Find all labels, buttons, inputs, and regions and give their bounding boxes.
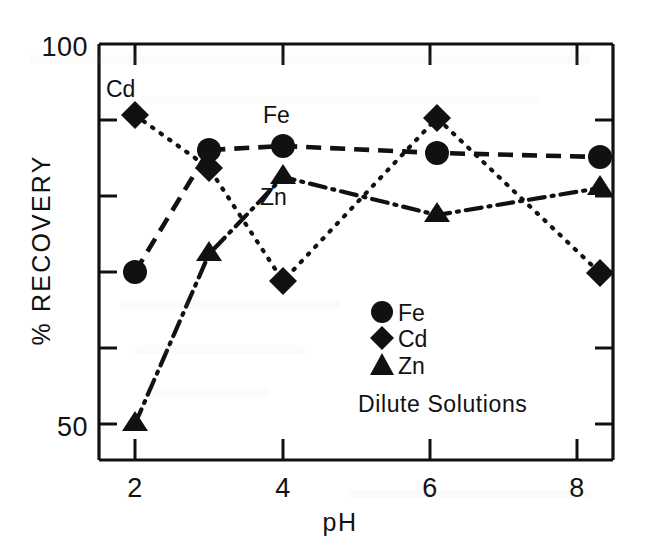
annotation-cd: Cd (106, 76, 135, 102)
data-point-zn-ph2 (122, 411, 148, 431)
data-point-cd-ph2 (121, 101, 149, 129)
annotation-fe: Fe (263, 102, 290, 128)
recovery-vs-ph-chart: 100 50 2 4 6 8 % RECOVERY pH (0, 0, 649, 541)
series-zn-line (135, 177, 600, 424)
data-point-fe-ph8 (588, 145, 612, 169)
x-tick-label-6: 6 (422, 473, 438, 503)
legend-note: Dilute Solutions (358, 391, 527, 417)
annotation-zn: Zn (260, 184, 287, 210)
x-tick-label-4: 4 (275, 473, 291, 503)
legend-label-cd: Cd (398, 326, 427, 352)
data-point-fe-ph2 (123, 260, 147, 284)
y-axis-ticks (99, 120, 117, 424)
figure-container: 100 50 2 4 6 8 % RECOVERY pH (0, 0, 649, 541)
data-point-fe-ph3 (197, 138, 221, 162)
data-point-fe-ph6 (425, 141, 449, 165)
y-tick-label-100: 100 (41, 32, 88, 62)
y-tick-label-50: 50 (57, 412, 88, 442)
legend-marker-triangle-icon (370, 353, 394, 375)
legend-label-fe: Fe (398, 300, 425, 326)
data-point-zn-ph4 (270, 164, 296, 184)
x-axis-ticks (135, 439, 577, 460)
plot-frame (99, 44, 613, 460)
data-point-fe-ph4 (271, 134, 295, 158)
legend-marker-diamond-icon (370, 326, 394, 350)
x-tick-label-8: 8 (569, 473, 585, 503)
x-axis-ticks-top (135, 44, 577, 65)
legend-marker-circle-icon (371, 301, 393, 323)
legend-label-zn: Zn (398, 353, 425, 379)
y-axis-title: % RECOVERY (27, 154, 55, 345)
data-point-zn-ph8 (587, 175, 613, 195)
x-tick-label-2: 2 (127, 473, 143, 503)
legend: Fe Cd Zn Dilute Solutions (358, 300, 527, 417)
x-axis-title: pH (323, 508, 358, 536)
